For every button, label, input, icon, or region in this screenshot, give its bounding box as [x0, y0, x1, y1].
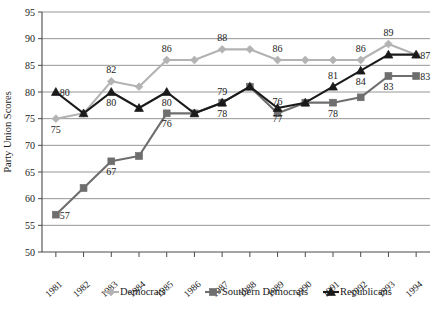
data-label: 83 [383, 81, 393, 92]
axes [42, 12, 430, 252]
data-point [274, 56, 282, 64]
data-label: 78 [328, 108, 338, 119]
data-point [385, 73, 392, 80]
data-point [191, 56, 199, 64]
y-tick-label: 60 [25, 193, 35, 204]
data-point [246, 45, 254, 53]
data-label: 88 [217, 32, 227, 43]
y-tick-label: 85 [25, 60, 35, 71]
y-tick-label: 95 [25, 7, 35, 18]
data-label: 79 [217, 86, 227, 97]
data-label: 80 [106, 97, 116, 108]
legend-marker [210, 289, 217, 296]
data-label: 83 [420, 71, 430, 82]
data-point [135, 104, 144, 112]
party-union-scores-chart: 50556065707580859095 1981198219831984198… [0, 0, 434, 316]
data-label: 82 [106, 64, 116, 75]
data-label: 86 [273, 43, 283, 54]
data-label: 86 [162, 43, 172, 54]
y-axis-ticks: 50556065707580859095 [25, 7, 42, 258]
chart-legend: DemocratsSouthern DemocratsRepublicans [103, 286, 392, 297]
data-label: 76 [162, 118, 172, 129]
data-point [357, 94, 364, 101]
data-point [329, 56, 337, 64]
data-point [413, 73, 420, 80]
data-point [163, 110, 170, 117]
data-label: 57 [60, 210, 70, 221]
y-tick-label: 75 [25, 113, 35, 124]
data-label: 87 [420, 50, 430, 61]
data-label: 78 [217, 108, 227, 119]
data-point [107, 88, 116, 96]
data-point [356, 66, 365, 74]
data-label: 75 [51, 124, 61, 135]
legend-label: Democrats [120, 286, 165, 297]
data-label: 80 [162, 97, 172, 108]
data-point [330, 99, 337, 106]
gridlines [42, 12, 430, 225]
data-label: 67 [106, 166, 116, 177]
x-tick-label: 1983 [99, 279, 120, 299]
y-tick-label: 65 [25, 167, 35, 178]
y-tick-label: 55 [25, 220, 35, 231]
x-tick-label: 1982 [71, 279, 92, 299]
data-point [52, 115, 60, 123]
data-label: 84 [356, 76, 366, 87]
x-tick-label: 1986 [182, 279, 203, 299]
data-point [218, 45, 226, 53]
data-label: 76 [273, 96, 283, 107]
data-point [329, 82, 338, 90]
data-point [52, 211, 59, 218]
x-tick-label: 1994 [404, 279, 425, 299]
data-point [136, 153, 143, 160]
data-point [162, 88, 171, 96]
y-axis-label: Party Union Scores [2, 91, 13, 173]
data-label: 89 [383, 27, 393, 38]
data-label: 77 [273, 113, 283, 124]
y-tick-label: 90 [25, 33, 35, 44]
x-tick-label: 1981 [43, 279, 64, 299]
y-tick-label: 80 [25, 87, 35, 98]
data-point [80, 185, 87, 192]
data-label: 86 [356, 43, 366, 54]
data-label: 80 [60, 87, 70, 98]
y-tick-label: 70 [25, 140, 35, 151]
y-tick-label: 50 [25, 247, 35, 258]
data-label: 81 [328, 70, 338, 81]
data-labels: 7582868886868957677678767883838080807977… [51, 27, 430, 221]
legend-label: Republicans [340, 286, 392, 297]
data-point [301, 56, 309, 64]
data-point [108, 158, 115, 165]
legend-label: Southern Democrats [222, 286, 308, 297]
